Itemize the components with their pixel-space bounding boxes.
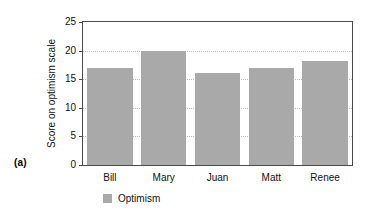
y-tick-label-5: 5 — [70, 131, 76, 141]
x-tick-label-juan: Juan — [207, 172, 229, 183]
x-tick-label-mary: Mary — [153, 172, 175, 183]
legend-swatch-optimism — [103, 194, 112, 203]
bar-mary — [141, 51, 186, 165]
panel-letter: (a) — [14, 157, 27, 168]
x-tick-label-bill: Bill — [103, 172, 116, 183]
legend-label-optimism: Optimism — [118, 193, 160, 204]
bar-bill — [87, 68, 132, 165]
figure-canvas: (a) Score on optimism scale 0510152025 B… — [0, 0, 374, 222]
y-tick-label-25: 25 — [65, 17, 76, 27]
y-tick-label-15: 15 — [65, 74, 76, 84]
x-tick-label-renee: Renee — [310, 172, 339, 183]
bar-matt — [249, 68, 294, 165]
bar-renee — [302, 61, 347, 165]
bar-juan — [195, 73, 240, 165]
x-tick-label-matt: Matt — [262, 172, 281, 183]
y-tick-label-10: 10 — [65, 103, 76, 113]
legend: Optimism — [103, 193, 160, 204]
y-tick-label-0: 0 — [70, 160, 76, 170]
plot-area: 0510152025 BillMaryJuanMattRenee — [82, 21, 353, 166]
y-axis-title: Score on optimism scale — [44, 21, 60, 166]
bar-group — [83, 22, 352, 165]
y-tick-label-20: 20 — [65, 46, 76, 56]
y-tick-mark-0 — [79, 165, 83, 166]
